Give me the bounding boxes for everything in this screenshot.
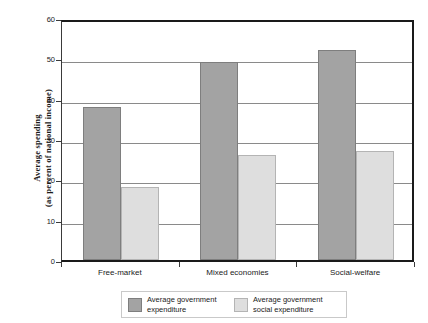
legend-swatch-dark-icon — [128, 298, 142, 312]
y-axis-tick-label: 50 — [33, 55, 55, 64]
bar — [121, 187, 159, 260]
bar — [238, 155, 276, 260]
y-axis-tick-label: 0 — [33, 257, 55, 266]
y-axis-tick-label: 40 — [33, 96, 55, 105]
bar-chart: Average spending (as percent of national… — [0, 0, 428, 323]
legend-item-social-expenditure: Average government social expenditure — [234, 295, 340, 314]
bar-group — [62, 22, 180, 260]
legend-item-government-expenditure: Average government expenditure — [128, 295, 234, 314]
x-axis-category-label: Free-market — [61, 268, 179, 277]
bar-group — [180, 22, 298, 260]
bar — [356, 151, 394, 260]
legend-swatch-light-icon — [234, 298, 248, 312]
bar-group — [297, 22, 415, 260]
y-axis-tick-label: 60 — [33, 15, 55, 24]
y-axis-tick-label: 30 — [33, 136, 55, 145]
legend-label-line1: Average government — [147, 295, 217, 305]
legend-label-government-expenditure: Average government expenditure — [147, 295, 217, 314]
bar — [200, 62, 238, 260]
x-axis-tick-mark — [296, 262, 297, 267]
bar-groups — [62, 22, 412, 260]
x-axis-tick-mark — [179, 262, 180, 267]
legend-label-social-expenditure: Average government social expenditure — [253, 295, 323, 314]
x-axis-tick-mark — [414, 262, 415, 267]
y-axis-tick-label: 10 — [33, 217, 55, 226]
legend-label-line2: expenditure — [147, 305, 217, 315]
x-axis-category-label: Mixed economies — [179, 268, 297, 277]
chart-legend: Average government expenditure Average g… — [121, 291, 347, 318]
bar — [83, 107, 121, 260]
y-axis-tick-label: 20 — [33, 176, 55, 185]
bar — [318, 50, 356, 260]
legend-label-line2: social expenditure — [253, 305, 323, 315]
plot-area — [61, 20, 414, 262]
x-axis-tick-mark — [61, 262, 62, 267]
legend-label-line1: Average government — [253, 295, 323, 305]
x-axis-category-label: Social-welfare — [296, 268, 414, 277]
